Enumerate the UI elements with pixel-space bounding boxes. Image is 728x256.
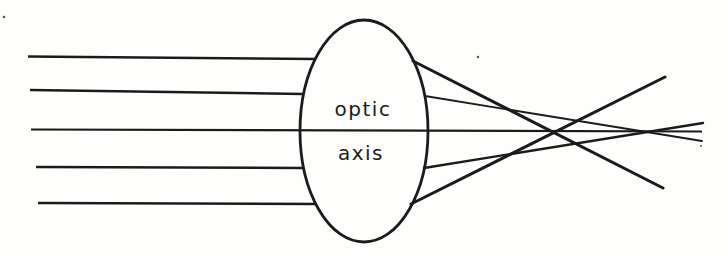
spherical-aberration-figure: optic axis [0,0,728,256]
refracted-ray [413,61,663,188]
incident-ray [30,90,303,94]
scan-noise-speck [3,16,6,19]
refracted-rays-group [411,61,703,204]
incident-ray [28,57,315,60]
lens-label-optic: optic [335,97,392,121]
incident-ray [36,167,304,168]
refracted-ray [411,77,665,204]
incident-ray [38,203,317,204]
scan-noise-speck [477,56,479,58]
refracted-ray [425,96,702,141]
optic-axis-group [31,130,702,132]
lens-label-axis: axis [338,141,384,165]
optic-axis-line [31,130,702,132]
scan-noise-speck [700,145,702,147]
diagram-canvas: optic axis [0,0,728,256]
